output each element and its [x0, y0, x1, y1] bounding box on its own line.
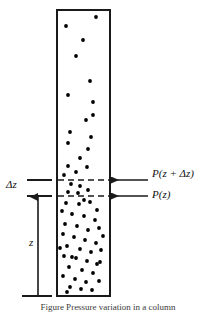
molecule-dot — [93, 218, 97, 222]
molecule-dot — [66, 164, 70, 168]
molecule-dot — [91, 271, 95, 275]
pressure-top-label: P(z + Δz) — [152, 168, 194, 179]
molecule-dot — [65, 244, 69, 248]
molecule-dot — [79, 287, 83, 291]
molecule-dot — [94, 15, 98, 19]
molecule-dot — [99, 248, 103, 252]
molecule-dot — [72, 235, 76, 239]
molecule-dot — [74, 54, 78, 58]
molecule-dot — [94, 241, 98, 245]
molecule-dot — [68, 285, 72, 289]
molecule-dot — [65, 290, 69, 294]
molecule-dot — [66, 141, 70, 145]
molecule-dot — [97, 279, 101, 283]
molecule-dot — [61, 274, 65, 278]
molecule-dot — [60, 209, 64, 213]
column-rect — [57, 10, 110, 296]
molecule-dot — [76, 191, 80, 195]
molecule-dot — [62, 254, 66, 258]
molecule-dot — [82, 214, 86, 218]
molecule-dot — [101, 234, 105, 238]
molecule-dot — [80, 268, 84, 272]
molecule-dot — [66, 93, 70, 97]
molecule-dot — [78, 184, 82, 188]
molecule-dot — [64, 24, 68, 28]
molecule-dot — [63, 222, 67, 226]
molecule-dot — [83, 238, 87, 242]
molecule-dot — [95, 208, 99, 212]
molecule-dot — [66, 190, 70, 194]
molecule-dot — [77, 202, 81, 206]
molecule-dot — [88, 200, 92, 204]
molecule-dot — [75, 224, 79, 228]
gas-column-outline — [57, 10, 110, 296]
molecule-dot — [70, 255, 74, 259]
z-height-label: z — [29, 237, 33, 248]
molecule-dot — [78, 247, 82, 251]
molecule-dot — [82, 198, 86, 202]
molecule-dot — [91, 113, 95, 117]
molecule-dot — [89, 250, 93, 254]
molecule-dot — [86, 147, 90, 151]
molecule-dot — [81, 38, 85, 42]
molecule-dot — [86, 228, 90, 232]
molecule-dot — [58, 246, 62, 250]
molecule-dot — [67, 265, 71, 269]
molecule-dot — [68, 130, 72, 134]
molecule-dot — [85, 165, 89, 169]
molecule-dot — [89, 135, 93, 139]
molecule-dot — [73, 277, 77, 281]
molecule-dot — [74, 170, 78, 174]
molecule-dot — [84, 280, 88, 284]
molecule-dot — [69, 182, 73, 186]
pressure-column-figure: P(z + Δz) P(z) Δz z Figure Pressure vari… — [0, 0, 216, 314]
pressure-bottom-label: P(z) — [152, 189, 170, 200]
molecule-dot — [98, 260, 102, 264]
figure-canvas — [0, 0, 216, 314]
molecule-dot — [64, 201, 68, 205]
molecule-dot — [78, 156, 82, 160]
figure-caption: Figure Pressure variation in a column — [0, 302, 216, 314]
molecule-dot — [61, 232, 65, 236]
molecule-dot — [84, 118, 88, 122]
dimension-tick-marks — [22, 180, 52, 296]
molecule-dot — [74, 256, 78, 260]
molecule-dot — [90, 288, 94, 292]
molecule-dot — [88, 79, 92, 83]
pressure-arrows-group — [111, 180, 148, 196]
molecule-dot — [70, 212, 74, 216]
molecule-dot — [85, 259, 89, 263]
molecule-dot — [97, 226, 101, 230]
molecule-dot — [62, 173, 66, 177]
molecule-dot — [86, 188, 90, 192]
molecule-dot — [91, 100, 95, 104]
delta-z-label: Δz — [6, 179, 17, 190]
